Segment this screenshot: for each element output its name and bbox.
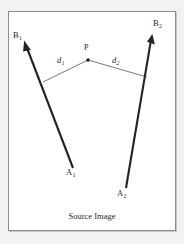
- label-d1: d1: [57, 56, 65, 65]
- label-b1: B1: [13, 31, 22, 40]
- point-p-marker: [86, 58, 89, 61]
- figure-root: B1 B2 A1 A2 P d1 d2 Source Image: [0, 0, 184, 244]
- label-a1-subscript: 1: [72, 172, 75, 178]
- diagram-canvas: [0, 0, 184, 244]
- label-d2-subscript: 2: [116, 60, 119, 66]
- label-b2-text: B: [153, 18, 159, 28]
- label-p-text: P: [84, 43, 88, 52]
- label-b1-text: B: [13, 30, 19, 40]
- label-d1-subscript: 1: [61, 60, 64, 66]
- label-d2: d2: [112, 56, 120, 65]
- vector-a1-b1-arrowhead: [23, 41, 31, 52]
- label-a2-subscript: 2: [123, 193, 126, 199]
- vector-a1-b1-shaft: [27, 49, 73, 169]
- label-a2: A2: [117, 189, 126, 198]
- figure-caption: Source Image: [9, 211, 175, 221]
- label-b1-subscript: 1: [19, 35, 22, 41]
- label-a1: A1: [66, 168, 75, 177]
- label-p: P: [84, 44, 88, 52]
- vector-a2-b2-arrowhead: [147, 34, 155, 45]
- label-b2-subscript: 2: [159, 23, 162, 29]
- label-b2: B2: [153, 19, 162, 28]
- vector-a2-b2-shaft: [126, 42, 151, 188]
